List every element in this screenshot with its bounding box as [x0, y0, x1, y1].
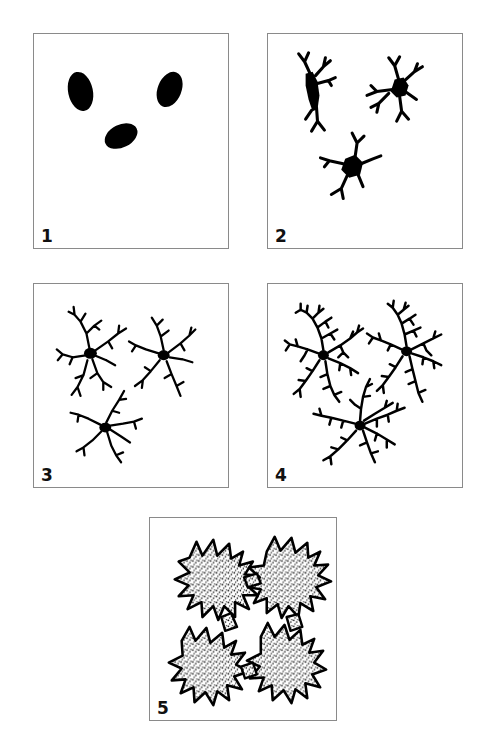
- hypertrophic-cell-group: [169, 537, 331, 705]
- panel-5: 5: [149, 517, 337, 721]
- early-ramified-cell-group: [299, 53, 423, 199]
- hypertrophic-cell: [248, 537, 331, 618]
- highly-ramified-cell: [314, 379, 405, 464]
- highly-ramified-cell: [285, 304, 363, 402]
- panel-3-label: 3: [41, 467, 53, 484]
- panel-1-illustration: [34, 34, 228, 248]
- panel-3: 3: [33, 283, 229, 488]
- hypertrophic-cell: [169, 627, 249, 705]
- hypertrophic-cell: [247, 623, 326, 703]
- panel-4-label: 4: [275, 467, 287, 484]
- panel-5-label: 5: [157, 700, 169, 717]
- ramified-cell: [129, 318, 195, 396]
- ramified-cell: [57, 307, 126, 396]
- caption-strip: [0, 742, 486, 750]
- panel-4: 4: [267, 283, 463, 488]
- amoeboid-cell-group: [64, 68, 187, 154]
- early-ramified-cell: [299, 53, 336, 131]
- highly-ramified-cell: [367, 301, 441, 402]
- ramified-cell-group: [57, 307, 196, 462]
- amoeboid-cell: [152, 68, 188, 111]
- panel-2-label: 2: [275, 228, 287, 245]
- figure-root: 1: [0, 0, 486, 750]
- panel-4-illustration: [268, 284, 462, 487]
- panel-5-illustration: [150, 518, 336, 720]
- highly-ramified-cell-group: [285, 301, 441, 464]
- early-ramified-cell: [367, 57, 422, 121]
- ramified-cell: [71, 391, 142, 462]
- panel-1: 1: [33, 33, 229, 249]
- amoeboid-cell: [64, 70, 96, 114]
- panel-2: 2: [267, 33, 463, 249]
- early-ramified-cell: [320, 133, 380, 198]
- amoeboid-cell: [101, 118, 142, 154]
- panel-2-illustration: [268, 34, 462, 248]
- panel-1-label: 1: [41, 228, 53, 245]
- panel-3-illustration: [34, 284, 228, 487]
